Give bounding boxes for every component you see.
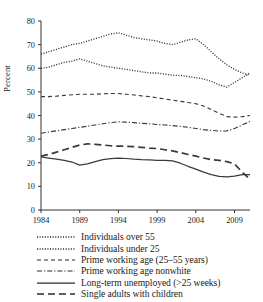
- x-axis-ticks: 198419891994199920042009: [33, 210, 243, 225]
- legend: Individuals over 55Individuals under 25P…: [0, 231, 263, 299]
- legend-label: Individuals over 55: [81, 231, 155, 242]
- y-tick-label: 0: [31, 206, 35, 215]
- x-tick-label: 2004: [188, 216, 205, 225]
- plot-area: Percent 01020304050607080 19841989199419…: [0, 0, 263, 232]
- y-tick-label: 50: [27, 88, 35, 97]
- data-series-group: [41, 33, 250, 179]
- y-axis-ticks: 01020304050607080: [27, 17, 41, 215]
- legend-item[interactable]: Prime working age nonwhite: [0, 265, 263, 276]
- series-line: [41, 121, 250, 133]
- series-line: [41, 33, 250, 76]
- legend-line-swatch: [36, 243, 76, 254]
- x-tick-label: 1999: [149, 216, 166, 225]
- legend-line-swatch: [36, 277, 76, 288]
- x-tick-label: 1984: [33, 216, 50, 225]
- line-chart-figure: Percent 01020304050607080 19841989199419…: [0, 0, 263, 302]
- legend-label: Single adults with children: [81, 288, 183, 299]
- legend-item[interactable]: Individuals over 55: [0, 231, 263, 242]
- y-tick-label: 10: [27, 182, 35, 191]
- y-tick-label: 20: [27, 159, 35, 168]
- plot-svg: 01020304050607080 1984198919941999200420…: [0, 0, 263, 232]
- series-line: [41, 94, 250, 118]
- y-tick-label: 70: [27, 41, 35, 50]
- legend-line-swatch: [36, 265, 76, 276]
- legend-item[interactable]: Single adults with children: [0, 288, 263, 299]
- y-tick-label: 60: [27, 64, 35, 73]
- legend-line-swatch: [36, 288, 76, 299]
- x-tick-label: 2009: [226, 216, 243, 225]
- y-tick-label: 40: [27, 112, 35, 121]
- legend-line-swatch: [36, 231, 76, 242]
- series-line: [41, 59, 250, 87]
- x-tick-label: 1989: [71, 216, 88, 225]
- legend-label: Long-term unemployed (>25 weeks): [81, 277, 220, 288]
- legend-item[interactable]: Individuals under 25: [0, 242, 263, 253]
- y-tick-label: 80: [27, 17, 35, 26]
- legend-label: Individuals under 25: [81, 243, 159, 254]
- legend-line-swatch: [36, 254, 76, 265]
- legend-item[interactable]: Prime working age (25–55 years): [0, 254, 263, 265]
- legend-label: Prime working age nonwhite: [81, 265, 191, 276]
- y-axis-title: Percent: [2, 65, 12, 92]
- legend-item[interactable]: Long-term unemployed (>25 weeks): [0, 277, 263, 288]
- legend-label: Prime working age (25–55 years): [81, 254, 208, 265]
- x-tick-label: 1994: [110, 216, 127, 225]
- y-tick-label: 30: [27, 135, 35, 144]
